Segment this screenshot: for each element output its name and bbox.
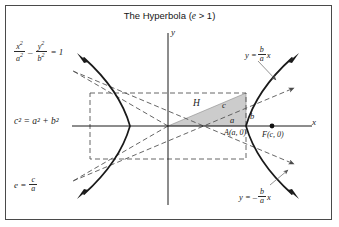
eq-y-den-sup: 2: [42, 52, 45, 58]
upper-asymptote-leader-line: [258, 61, 276, 80]
hyperbola-figure: The Hyperbola (e > 1): [0, 0, 339, 227]
side-label-b: b: [250, 111, 254, 121]
upper-asym-slope-fraction: b a: [258, 46, 266, 64]
y-axis-label: y: [171, 27, 175, 37]
asymptote-lower-left-segment: [73, 126, 168, 181]
ecc-lhs: e =: [14, 180, 26, 190]
ecc-num: c: [29, 176, 37, 184]
pythagorean-relation: c² = a² + b²: [14, 116, 59, 126]
x-squared-over-a-squared: x2 a2: [14, 40, 25, 63]
asymptote-negative-slope-line: [73, 71, 294, 164]
lower-asymptote-label: y = – b a x: [239, 188, 271, 206]
ecc-den: a: [29, 184, 37, 193]
upper-asymptote-label: y = b a x: [245, 46, 270, 64]
shaded-triangle: [168, 93, 246, 126]
asymptote-upper-left-segment: [73, 71, 168, 126]
upper-asym-num: b: [258, 46, 266, 54]
side-label-a: a: [230, 115, 234, 125]
x-axis-label: x: [312, 117, 316, 127]
focus-label-F: F(c, 0): [262, 130, 284, 139]
upper-asym-den: a: [258, 54, 266, 63]
standard-equation: x2 a2 – y2 b2 = 1: [14, 40, 63, 63]
eq-x-num-sup: 2: [20, 40, 23, 46]
eq-minus-sign: –: [26, 47, 35, 57]
asymptote-positive-slope-line: [73, 88, 294, 181]
focus-point-marker: [270, 124, 275, 129]
side-label-c: c: [222, 100, 226, 110]
eccentricity-relation: e = c a: [14, 176, 37, 194]
upper-asym-lhs: y =: [245, 50, 257, 60]
lower-asymptote-leader-line: [270, 170, 288, 185]
lower-asym-den: a: [258, 196, 266, 205]
y-squared-over-b-squared: y2 b2: [36, 40, 47, 63]
c-over-a-fraction: c a: [29, 176, 37, 194]
eq-y-num-sup: 2: [41, 40, 44, 46]
lower-asym-slope-fraction: b a: [258, 188, 266, 206]
lower-asym-lhs: y = –: [239, 192, 257, 202]
eq-equals-one: = 1: [48, 47, 64, 57]
hyperbola-plot: [0, 0, 339, 227]
hyperbola-label-H: H: [193, 98, 200, 108]
vertex-label-A: A(a, 0): [224, 128, 246, 137]
lower-asym-num: b: [258, 188, 266, 196]
upper-asym-rhs: x: [267, 50, 271, 60]
lower-asym-rhs: x: [267, 192, 271, 202]
eq-x-den-sup: 2: [20, 52, 23, 58]
